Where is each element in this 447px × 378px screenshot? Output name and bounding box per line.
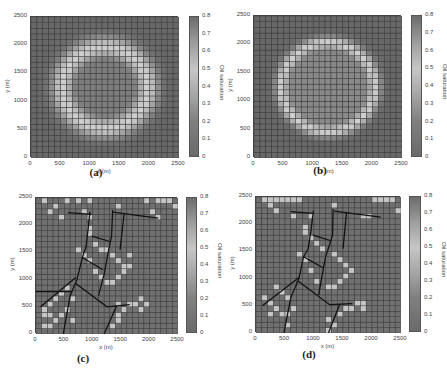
- y-tick-label: 1000: [226, 96, 250, 102]
- colorbar-tick-label: 0: [202, 153, 205, 159]
- x-tick-label: 2500: [388, 335, 412, 341]
- colorbar-tick-label: 0.7: [200, 210, 208, 216]
- x-tick-label: 500: [271, 160, 295, 166]
- panel-caption: (b): [300, 164, 340, 176]
- heatmap-cells: [254, 16, 402, 158]
- y-tick-label: 2000: [8, 220, 32, 226]
- y-tick-label: 1500: [228, 246, 252, 252]
- y-tick-label: 2500: [226, 11, 250, 17]
- colorbar: [189, 16, 199, 157]
- x-tick-label: 500: [48, 160, 72, 166]
- colorbar-label: Oil saturation: [219, 65, 225, 100]
- colorbar-tick-label: 0.2: [202, 118, 210, 124]
- colorbar-tick-label: 0.8: [200, 193, 208, 199]
- y-tick-label: 500: [226, 125, 250, 131]
- x-tick-label: 0: [243, 335, 267, 341]
- colorbar-tick-label: 0.1: [200, 312, 208, 318]
- colorbar-tick-label: 0.7: [202, 30, 210, 36]
- y-tick-label: 1000: [3, 97, 27, 103]
- colorbar-tick-label: 0.2: [424, 294, 432, 300]
- colorbar-tick-label: 0.4: [202, 83, 210, 89]
- x-tick-label: 2000: [136, 160, 160, 166]
- x-tick-label: 2000: [137, 336, 161, 342]
- colorbar-tick-label: 0.5: [200, 244, 208, 250]
- colorbar-label: Oil saturation: [442, 64, 447, 99]
- colorbar-tick-label: 0.1: [202, 135, 210, 141]
- y-tick-label: 500: [3, 125, 27, 131]
- heatmap-cells: [31, 17, 179, 158]
- colorbar-tick-label: 0.4: [424, 260, 432, 266]
- colorbar-tick-label: 0: [424, 328, 427, 334]
- y-axis-label: y (m): [9, 257, 15, 271]
- x-tick-label: 0: [23, 336, 47, 342]
- heatmap-cells: [256, 197, 401, 333]
- y-tick-label: 0: [228, 328, 252, 334]
- x-tick-label: 2000: [359, 335, 383, 341]
- colorbar-tick-label: 0.3: [425, 100, 433, 106]
- y-axis-label: y (m): [227, 78, 233, 92]
- y-tick-label: 0: [3, 153, 27, 159]
- y-axis-label: y (m): [4, 79, 10, 93]
- colorbar-tick-label: 0.1: [424, 311, 432, 317]
- x-tick-label: 500: [272, 335, 296, 341]
- colorbar-tick-label: 0: [200, 329, 203, 335]
- y-tick-label: 500: [228, 301, 252, 307]
- x-tick-label: 2000: [359, 160, 383, 166]
- colorbar-tick-label: 0.7: [424, 209, 432, 215]
- colorbar-tick-label: 0.2: [425, 118, 433, 124]
- colorbar-tick-label: 0.4: [425, 82, 433, 88]
- heatmap-plot: [35, 197, 177, 333]
- y-tick-label: 2000: [3, 40, 27, 46]
- y-tick-label: 0: [226, 153, 250, 159]
- colorbar-tick-label: 0.5: [424, 243, 432, 249]
- y-tick-label: 1500: [3, 68, 27, 74]
- colorbar-tick-label: 0.1: [425, 135, 433, 141]
- y-tick-label: 0: [8, 329, 32, 335]
- colorbar-tick-label: 0.5: [202, 65, 210, 71]
- heatmap-plot: [253, 15, 401, 157]
- heatmap-plot: [255, 196, 400, 332]
- colorbar-tick-label: 0.6: [425, 47, 433, 53]
- colorbar: [411, 15, 422, 157]
- colorbar-tick-label: 0.2: [200, 295, 208, 301]
- y-tick-label: 2500: [8, 193, 32, 199]
- panel-caption: (c): [63, 352, 103, 364]
- x-tick-label: 1000: [80, 336, 104, 342]
- x-tick-label: 1500: [108, 336, 132, 342]
- colorbar-tick-label: 0.4: [200, 261, 208, 267]
- colorbar-tick-label: 0.5: [425, 64, 433, 70]
- x-tick-label: 500: [51, 336, 75, 342]
- y-tick-label: 2500: [3, 12, 27, 18]
- colorbar-tick-label: 0.6: [424, 226, 432, 232]
- colorbar: [409, 196, 421, 332]
- colorbar-tick-label: 0: [425, 153, 428, 159]
- x-tick-label: 2500: [166, 160, 190, 166]
- colorbar-tick-label: 0.3: [202, 100, 210, 106]
- y-axis-label: y (m): [229, 256, 235, 270]
- colorbar-tick-label: 0.8: [425, 11, 433, 17]
- y-tick-label: 1000: [8, 275, 32, 281]
- x-tick-label: 1500: [330, 335, 354, 341]
- colorbar-tick-label: 0.6: [200, 227, 208, 233]
- y-tick-label: 2000: [228, 219, 252, 225]
- colorbar-label: Oil saturation: [441, 242, 447, 277]
- y-tick-label: 500: [8, 302, 32, 308]
- colorbar-tick-label: 0.8: [424, 192, 432, 198]
- x-tick-label: 0: [241, 160, 265, 166]
- colorbar-tick-label: 0.8: [202, 12, 210, 18]
- panel-caption: (a): [76, 166, 116, 178]
- colorbar-tick-label: 0.3: [200, 278, 208, 284]
- colorbar: [186, 197, 197, 333]
- panel-caption: (d): [289, 348, 329, 360]
- y-tick-label: 1500: [8, 247, 32, 253]
- x-axis-label: x (m): [91, 344, 121, 350]
- colorbar-tick-label: 0.7: [425, 29, 433, 35]
- heatmap-cells: [36, 198, 178, 334]
- x-tick-label: 0: [18, 160, 42, 166]
- y-tick-label: 2000: [226, 39, 250, 45]
- y-tick-label: 2500: [228, 192, 252, 198]
- heatmap-plot: [30, 16, 178, 157]
- x-tick-label: 1000: [301, 335, 325, 341]
- colorbar-label: Oil saturation: [217, 243, 223, 278]
- x-tick-label: 2500: [165, 336, 189, 342]
